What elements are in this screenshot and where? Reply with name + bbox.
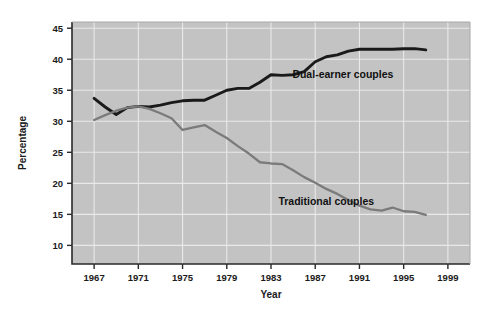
series-label-traditional-couples: Traditional couples (278, 195, 374, 207)
x-tick-label: 1983 (260, 272, 281, 283)
series-label-dual-earner-couples: Dual-earner couples (292, 68, 393, 80)
chart-container: 1015202530354045196719711975197919831987… (0, 0, 490, 311)
x-tick-label: 1967 (84, 272, 105, 283)
y-axis-title: Percentage (17, 116, 28, 170)
x-tick-label: 1991 (349, 272, 371, 283)
x-tick-label: 1979 (216, 272, 237, 283)
line-chart: 1015202530354045196719711975197919831987… (0, 0, 490, 311)
x-tick-label: 1995 (393, 272, 415, 283)
x-tick-label: 1999 (437, 272, 458, 283)
x-tick-label: 1975 (172, 272, 194, 283)
x-axis-title: Year (260, 289, 281, 300)
x-tick-label: 1971 (128, 272, 150, 283)
y-tick-label: 35 (52, 85, 63, 96)
y-tick-label: 45 (52, 23, 63, 34)
y-tick-label: 15 (52, 209, 63, 220)
x-tick-label: 1987 (305, 272, 326, 283)
y-tick-label: 10 (52, 240, 63, 251)
y-tick-label: 20 (52, 178, 63, 189)
y-tick-label: 30 (52, 116, 63, 127)
y-tick-label: 25 (52, 147, 63, 158)
y-tick-label: 40 (52, 54, 63, 65)
